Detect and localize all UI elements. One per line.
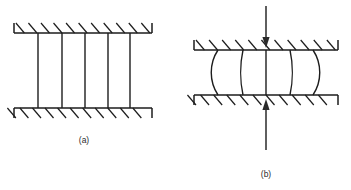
- panel-b-top-hatch-tick: [288, 40, 297, 50]
- panel-a-top-hatch-tick: [16, 23, 25, 33]
- panel-b-top-hatch-tick: [314, 40, 323, 50]
- panel-b-bottom-hatch-tick: [240, 95, 249, 105]
- panel-a-bottom-hatch-tick: [83, 108, 92, 118]
- panel-b-bottom-hatch-tick: [292, 95, 301, 105]
- panel-b-bottom-hatch-tick: [201, 95, 210, 105]
- panel-a-bottom-hatch-tick: [45, 108, 54, 118]
- panel-b-bottom-hatch-tick: [253, 95, 262, 105]
- panel-b-member: [313, 50, 320, 95]
- panel-a-top-hatch-tick: [41, 23, 50, 33]
- panel-b-bottom-hatch-tick: [214, 95, 223, 105]
- buckling-figure: (a) (b): [0, 0, 351, 190]
- panel-b-member: [211, 50, 218, 95]
- panel-a-bottom-hatch-tick: [58, 108, 67, 118]
- panel-a-top-hatch-tick: [28, 23, 37, 33]
- panel-a-top-hatch-tick: [66, 23, 75, 33]
- panel-a-bottom-hatch-tick: [120, 108, 129, 118]
- panel-b-top-hatch-tick: [235, 40, 244, 50]
- bottom-compression-arrow-head: [262, 99, 269, 110]
- panel-b-bottom-hatch-tick: [318, 95, 327, 105]
- panel-a-top-hatch-tick: [91, 23, 100, 33]
- panel-a-top-hatch-tick: [129, 23, 138, 33]
- panel-a-top-hatch-tick: [104, 23, 113, 33]
- panel-b-bottom-hatch-tick: [279, 95, 288, 105]
- panel-b-top-hatch-tick: [196, 40, 205, 50]
- panel-b-top-hatch-tick: [209, 40, 218, 50]
- panel-a: [7, 23, 152, 118]
- panel-b-bottom-hatch-tick: [305, 95, 314, 105]
- panel-a-bottom-hatch-tick: [108, 108, 117, 118]
- panel-b-top-hatch-tick: [301, 40, 310, 50]
- panel-b-top-hatch-tick: [222, 40, 231, 50]
- panel-b-bottom-hatch-tick: [227, 95, 236, 105]
- panel-a-bottom-hatch-tick: [133, 108, 142, 118]
- panel-b-top-hatch-tick: [275, 40, 284, 50]
- panel-a-bottom-hatch-tick: [70, 108, 79, 118]
- panel-b-top-hatch-tick: [248, 40, 257, 50]
- panel-a-caption: (a): [79, 135, 90, 145]
- panel-a-top-hatch-tick: [141, 23, 150, 33]
- panel-a-bottom-hatch-tick: [32, 108, 41, 118]
- panel-b-caption: (b): [261, 169, 272, 179]
- panel-a-bottom-hatch-tick: [20, 108, 29, 118]
- panel-b-top-hatch-tick: [327, 40, 336, 50]
- panel-a-top-hatch-tick: [54, 23, 63, 33]
- panel-b-member: [290, 50, 292, 95]
- panel-a-bottom-hatch-tick: [95, 108, 104, 118]
- panel-a-top-hatch-tick: [116, 23, 125, 33]
- panel-b: [187, 6, 338, 150]
- panel-b-member: [241, 50, 243, 95]
- panel-a-top-hatch-tick: [79, 23, 88, 33]
